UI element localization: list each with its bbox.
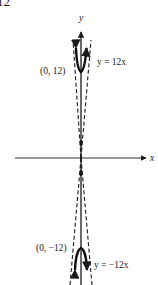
upper-vertex-point <box>80 71 82 73</box>
graph-figure <box>0 0 158 285</box>
x-axis-label: x <box>150 153 154 163</box>
lower-vertex-point <box>80 247 82 249</box>
y-axis-label: y <box>79 13 83 23</box>
upper-equation-label: y = 12x <box>97 57 126 67</box>
upper-vertex-label: (0, 12) <box>40 66 65 76</box>
lower-vertex-label: (0, −12) <box>36 243 67 253</box>
lower-equation-label: y = −12x <box>94 260 128 270</box>
